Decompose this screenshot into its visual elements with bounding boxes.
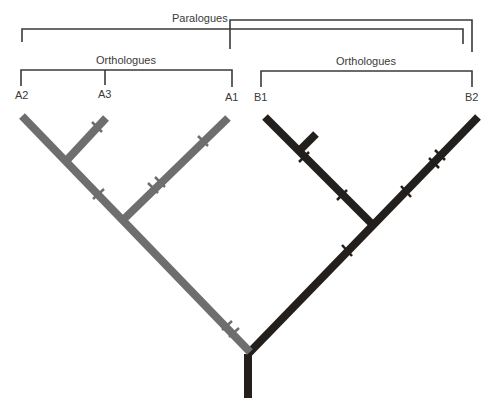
paralogue-bracket-a1-b2 (230, 20, 472, 52)
lineage-b-mutations (299, 150, 445, 256)
gene-tree-diagram (0, 0, 491, 411)
orthologues-label-b: Orthologues (336, 55, 396, 67)
orthologue-brackets (21, 70, 472, 87)
leaf-label-a2: A2 (15, 89, 28, 101)
paralogues-label: Paralogues (172, 12, 228, 24)
paralogue-brackets (22, 20, 472, 52)
orthologue-bracket-b (261, 71, 472, 87)
paralogue-bracket-a2-b1 (22, 29, 463, 44)
leaf-label-a3: A3 (98, 88, 111, 100)
lineage-a-branches (22, 116, 250, 352)
orthologues-label-a: Orthologues (96, 54, 156, 66)
orthologue-bracket-a (21, 70, 232, 87)
lineage-a-mutations (92, 122, 239, 337)
leaf-label-b1: B1 (254, 91, 267, 103)
leaf-label-b2: B2 (465, 91, 478, 103)
leaf-label-a1: A1 (225, 91, 238, 103)
